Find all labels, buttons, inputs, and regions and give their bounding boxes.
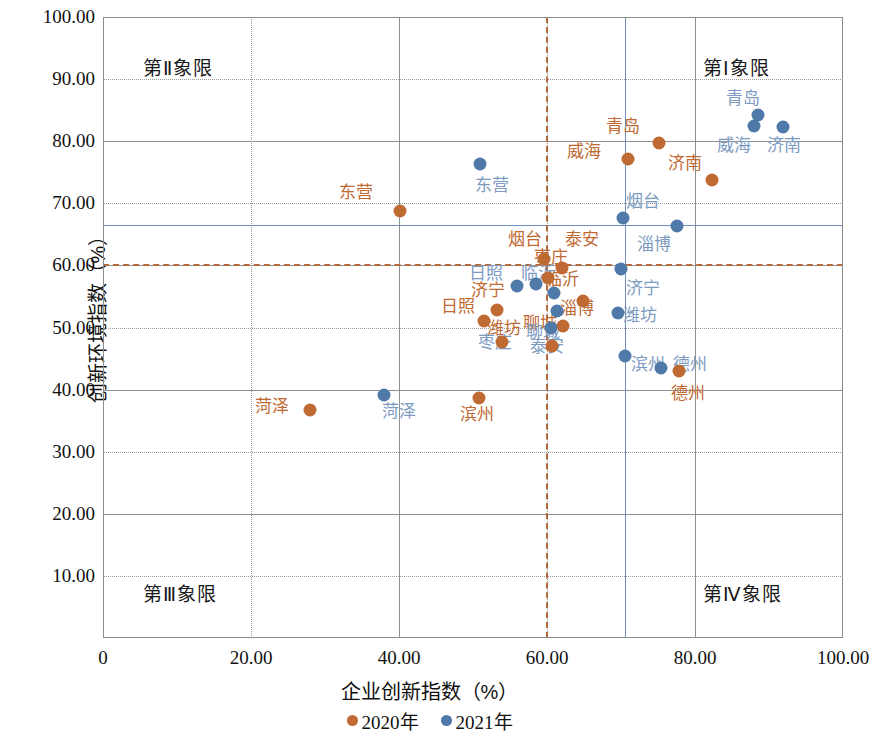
y-tick-label: 100.00	[43, 6, 95, 28]
y-axis-ticks: 10.0020.0030.0040.0050.0060.0070.0080.00…	[0, 17, 95, 638]
plot-border	[103, 17, 843, 638]
x-tick-label: 60.00	[526, 647, 569, 669]
y-tick-label: 80.00	[52, 130, 95, 152]
legend-label: 2020年	[362, 707, 419, 733]
plot-area: 第Ⅱ象限第Ⅰ象限第Ⅲ象限第Ⅳ象限 东营青岛威海济南烟台泰安枣庄临沂济宁日照淄博潍…	[103, 17, 843, 638]
legend-marker-icon	[441, 715, 452, 726]
x-tick-label: 20.00	[230, 647, 273, 669]
y-tick-label: 20.00	[52, 503, 95, 525]
y-tick-label: 40.00	[52, 379, 95, 401]
y-tick-label: 90.00	[52, 68, 95, 90]
y-tick-label: 60.00	[52, 254, 95, 276]
legend-marker-icon	[347, 715, 358, 726]
x-tick-label: 100.00	[817, 647, 869, 669]
x-tick-label: 0	[98, 647, 108, 669]
legend-item: 2020年	[347, 707, 419, 733]
x-tick-label: 40.00	[378, 647, 421, 669]
x-axis-ticks: 020.0040.0060.0080.00100.00	[103, 647, 843, 675]
y-tick-label: 10.00	[52, 565, 95, 587]
x-tick-label: 80.00	[674, 647, 717, 669]
y-tick-label: 50.00	[52, 317, 95, 339]
y-tick-label: 30.00	[52, 441, 95, 463]
legend-item: 2021年	[441, 707, 513, 733]
chart-legend: 2020年2021年	[0, 707, 859, 733]
legend-label: 2021年	[456, 707, 513, 733]
x-axis-title: 企业创新指数（%）	[0, 676, 859, 705]
y-tick-label: 70.00	[52, 192, 95, 214]
